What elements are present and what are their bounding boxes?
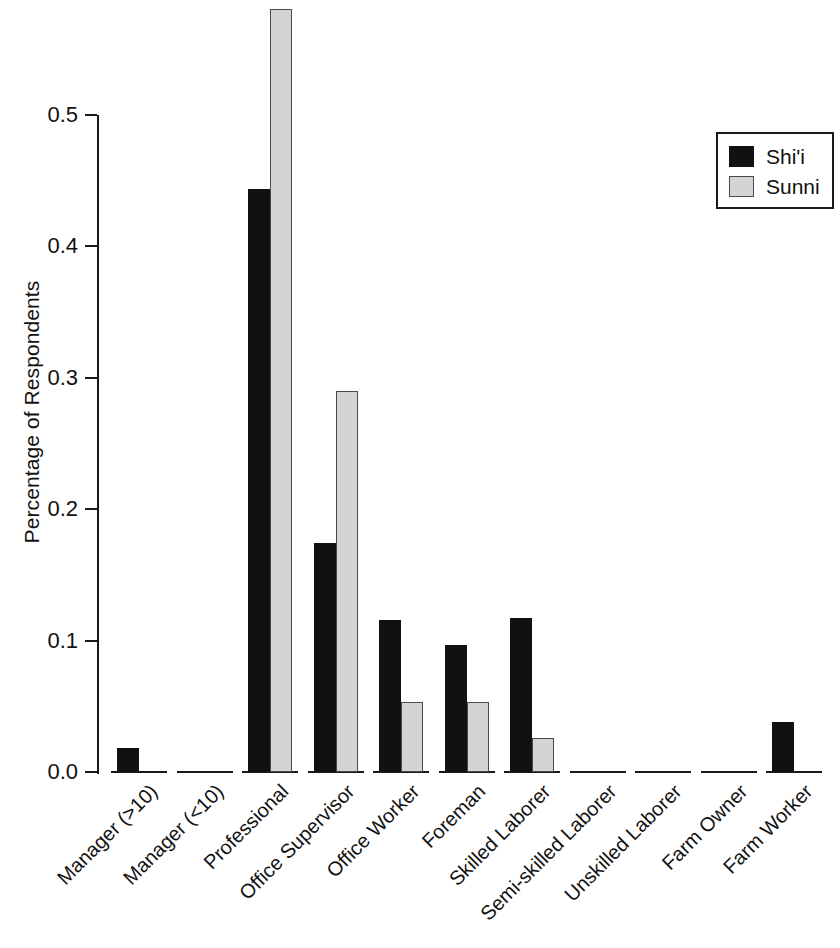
y-axis-line <box>97 115 99 774</box>
y-axis-tick: 0.2 <box>85 508 97 510</box>
y-axis-tick-label: 0.1 <box>47 628 78 654</box>
bar-shii <box>117 748 139 772</box>
legend-swatch-shii <box>729 146 754 167</box>
y-axis-label: Percentage of Respondents <box>20 232 44 592</box>
bar-shii <box>248 189 270 772</box>
y-axis-tick-label: 0.2 <box>47 496 78 522</box>
y-axis-tick: 0.3 <box>85 377 97 379</box>
y-axis-tick-label: 0.0 <box>47 759 78 785</box>
legend-label-shii: Shi'i <box>766 146 805 167</box>
y-axis-tick: 0.1 <box>85 640 97 642</box>
y-axis-tick: 0.5 <box>85 114 97 116</box>
legend-label-sunni: Sunni <box>766 176 820 197</box>
y-axis-tick: 0.4 <box>85 245 97 247</box>
bar-chart-figure: Percentage of Respondents 0.00.10.20.30.… <box>0 0 840 948</box>
legend-item-shii: Shi'i <box>729 143 805 169</box>
legend-item-sunni: Sunni <box>729 173 820 199</box>
y-axis-tick-label: 0.4 <box>47 233 78 259</box>
y-axis-tick-label: 0.5 <box>47 102 78 128</box>
y-axis-tick: 0.0 <box>85 771 97 773</box>
bar-sunni <box>270 9 292 772</box>
legend-swatch-sunni <box>729 176 754 197</box>
chart-legend: Shi'i Sunni <box>716 132 834 209</box>
y-axis-tick-label: 0.3 <box>47 365 78 391</box>
plot-area: 0.00.10.20.30.40.5 Manager (>10)Manager … <box>97 0 840 772</box>
